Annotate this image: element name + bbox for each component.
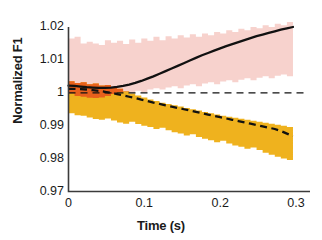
y-tick-label: 0.97 — [4, 184, 64, 198]
y-tick-label: 0.98 — [4, 151, 64, 165]
x-tick-label: 0.1 — [136, 196, 153, 210]
x-tick-label: 0.3 — [287, 196, 304, 210]
chart-container: 0.970.980.9911.011.02 00.10.20.3 Normali… — [0, 0, 322, 240]
x-tick-label: 0 — [65, 196, 72, 210]
y-axis-title: Normalized F1 — [10, 31, 25, 131]
x-tick-label: 0.2 — [211, 196, 228, 210]
x-axis-title: Time (s) — [0, 218, 322, 233]
